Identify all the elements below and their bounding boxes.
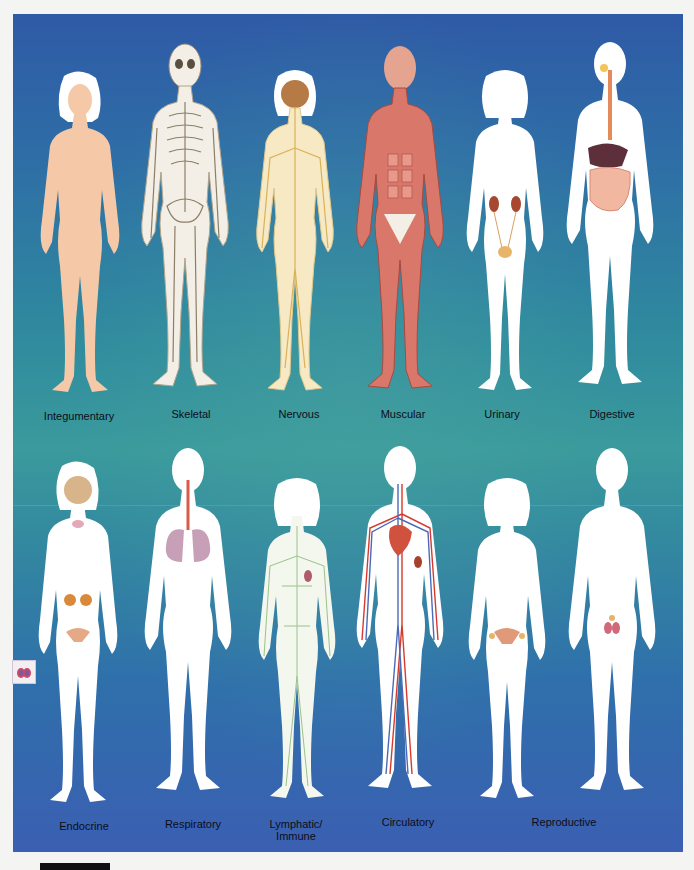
label-integumentary: Integumentary — [44, 410, 114, 422]
testes-icon — [12, 660, 36, 684]
label-nervous: Nervous — [279, 408, 320, 420]
label-lymphatic-line2: Immune — [276, 830, 316, 842]
label-muscular: Muscular — [381, 408, 426, 420]
label-respiratory: Respiratory — [165, 818, 221, 830]
figure-muscular — [350, 44, 450, 404]
figure-respiratory — [138, 446, 238, 806]
label-reproductive: Reproductive — [532, 816, 597, 828]
footer-bar — [40, 863, 110, 870]
label-skeletal: Skeletal — [171, 408, 210, 420]
label-digestive: Digestive — [589, 408, 634, 420]
figure-reproductive-female — [462, 476, 552, 806]
figure-endocrine — [28, 460, 128, 810]
figure-urinary — [460, 68, 550, 398]
figure-reproductive-male — [562, 446, 662, 806]
figure-circulatory — [350, 444, 450, 806]
label-lymphatic-line1: Lymphatic/ — [270, 818, 323, 830]
label-urinary: Urinary — [484, 408, 519, 420]
figure-lymphatic — [252, 476, 342, 806]
figure-integumentary — [30, 70, 130, 400]
label-lymphatic: Lymphatic/ Immune — [270, 818, 323, 842]
label-circulatory: Circulatory — [382, 816, 435, 828]
figure-skeletal — [135, 42, 235, 402]
figure-nervous — [250, 68, 340, 398]
figure-digestive — [560, 40, 660, 400]
label-endocrine: Endocrine — [59, 820, 109, 832]
